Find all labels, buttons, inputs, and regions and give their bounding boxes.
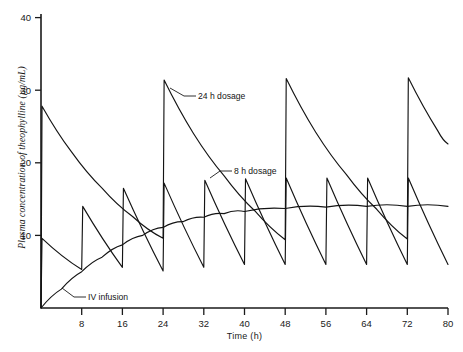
x-axis-ticks bbox=[82, 308, 448, 315]
x-tick-label-32: 32 bbox=[199, 318, 210, 329]
annotation-iv-infusion: IV infusion bbox=[88, 292, 128, 302]
x-tick-label-56: 56 bbox=[321, 318, 332, 329]
figure-container: Plasma concentration of theophylline (µg… bbox=[0, 0, 463, 352]
y-tick-label-30: 30 bbox=[20, 85, 31, 96]
x-tick-label-8: 8 bbox=[79, 318, 84, 329]
x-axis-title: Time (h) bbox=[227, 331, 263, 341]
curve-24-h-dosage bbox=[41, 78, 448, 308]
x-tick-label-64: 64 bbox=[361, 318, 372, 329]
annotation-24h-dosage: 24 h dosage bbox=[198, 91, 246, 101]
y-tick-label-40: 40 bbox=[20, 12, 31, 23]
x-tick-label-40: 40 bbox=[239, 318, 250, 329]
y-axis-ticks bbox=[35, 18, 41, 236]
annotation-8h-dosage: 8 h dosage bbox=[234, 166, 277, 176]
y-tick-label-20: 20 bbox=[20, 157, 31, 168]
curve-8-h-dosage bbox=[41, 178, 448, 308]
x-tick-label-48: 48 bbox=[280, 318, 291, 329]
y-tick-label-10: 10 bbox=[20, 230, 31, 241]
x-tick-label-80: 80 bbox=[443, 318, 454, 329]
x-tick-label-24: 24 bbox=[158, 318, 169, 329]
x-tick-label-72: 72 bbox=[402, 318, 413, 329]
x-tick-label-16: 16 bbox=[117, 318, 128, 329]
data-curves-layer bbox=[41, 78, 448, 308]
theophylline-concentration-chart: 40 30 20 10 8 16 24 32 40 48 56 64 72 80… bbox=[0, 0, 463, 352]
